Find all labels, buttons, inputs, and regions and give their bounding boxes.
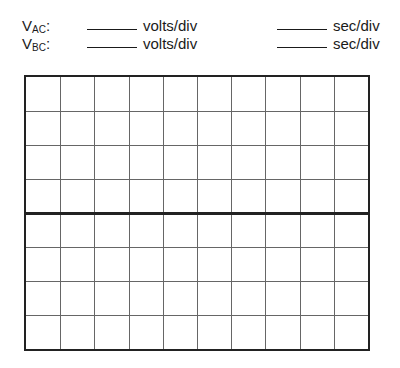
channel-row-vbc: VBC: volts/div sec/div: [0, 35, 400, 53]
grid-center-axis: [26, 212, 368, 215]
vbc-volts-unit: volts/div: [143, 35, 197, 53]
vbc-time-blank[interactable]: [277, 47, 327, 48]
vbc-time-unit: sec/div: [333, 35, 380, 53]
channel-row-vac: VAC: volts/div sec/div: [0, 17, 400, 35]
oscilloscope-grid: [24, 75, 370, 351]
grid-horizontal-line: [26, 281, 368, 282]
grid-horizontal-line: [26, 179, 368, 180]
grid-horizontal-line: [26, 247, 368, 248]
vac-volts-blank[interactable]: [87, 29, 137, 30]
grid-horizontal-line: [26, 145, 368, 146]
grid-horizontal-line: [26, 111, 368, 112]
vac-volts-unit: volts/div: [143, 17, 197, 35]
vbc-label: VBC:: [22, 35, 50, 57]
vac-time-blank[interactable]: [277, 29, 327, 30]
vbc-volts-blank[interactable]: [87, 47, 137, 48]
vac-time-unit: sec/div: [333, 17, 380, 35]
grid-horizontal-line: [26, 315, 368, 316]
